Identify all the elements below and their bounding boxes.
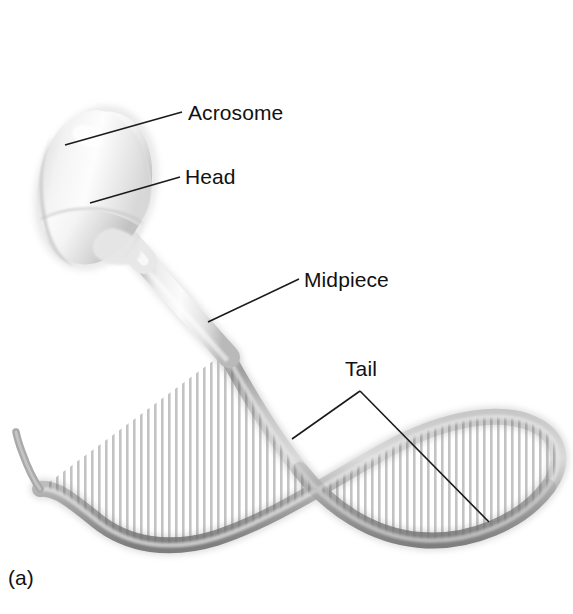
sperm-illustration <box>0 0 573 614</box>
figure-caption: (a) <box>8 566 34 590</box>
label-tail: Tail <box>345 357 377 381</box>
label-midpiece: Midpiece <box>304 268 389 292</box>
leader-line-tail-left <box>292 391 360 439</box>
sperm-tail <box>0 330 573 590</box>
label-acrosome: Acrosome <box>188 101 283 125</box>
sperm-diagram-figure: Acrosome Head Midpiece Tail (a) <box>0 0 573 614</box>
label-head: Head <box>185 165 236 189</box>
leader-line-midpiece <box>208 279 299 322</box>
sperm-midpiece <box>122 256 255 378</box>
